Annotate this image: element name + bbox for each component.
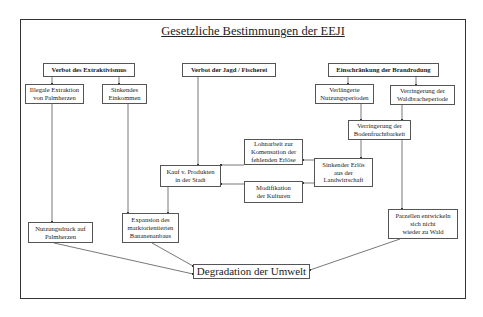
node-verbot-jagd: Verbot der Jagd / Fischerei xyxy=(182,63,276,77)
node-verringerung-boden: Verringerung der Bodenfruchtbarkeit xyxy=(348,120,411,140)
node-parzellen: Parzellen entwickeln sich nicht wieder z… xyxy=(388,209,458,239)
node-einschraenkung-brandrodung: Einschränkung der Brandrodung xyxy=(328,63,439,77)
node-sinkender-erloes: Sinkender Erlös aus der Landwirtschaft xyxy=(314,158,373,187)
diagram-title: Gesetzliche Bestimmungen der EEJI xyxy=(20,24,483,39)
node-verbot-extraktivismus: Verbot des Extraktivismus xyxy=(43,63,135,77)
node-modifikation: Modifikation der Kulturen xyxy=(244,181,303,203)
node-verlaengerte-nutzung: Verlängerte Nutzungsperioden xyxy=(315,84,374,104)
diagram-canvas: Gesetzliche Bestimmungen der EEJI Verbot… xyxy=(0,0,483,317)
node-verringerung-waldbrache: Verringerung der Waldbracheperiode xyxy=(390,85,455,105)
node-degradation: Degradation der Umwelt xyxy=(193,264,310,279)
node-illegale-extraktion: Illegale Extraktion von Palmherzen xyxy=(25,84,84,104)
node-kauf-produkte: Kauf v. Produkten in der Stadt xyxy=(160,165,221,187)
node-sinkendes-einkommen: Sinkendes Einkommen xyxy=(102,84,147,104)
node-lohnarbeit: Lohnarbeit zur Komensation der fehlenden… xyxy=(244,139,303,165)
node-nutzungsdruck: Nutzungsdruck auf Palmherzen xyxy=(28,222,93,243)
node-expansion: Expansion des marktorientierten Bananena… xyxy=(122,213,179,243)
